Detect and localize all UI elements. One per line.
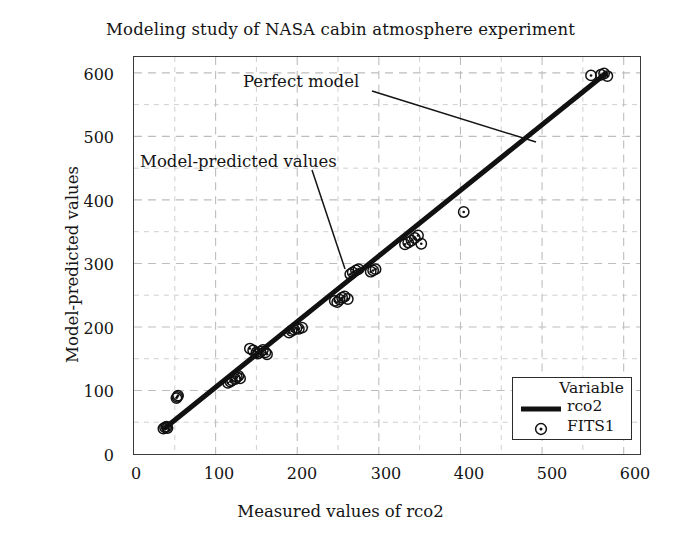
x-tick-label-200: 200 xyxy=(272,464,332,483)
x-axis-title: Measured values of rco2 xyxy=(0,502,681,521)
legend: Variable rco2 FITS1 xyxy=(512,377,632,440)
x-tick-label-500: 500 xyxy=(522,464,582,483)
page-title: Modeling study of NASA cabin atmosphere … xyxy=(0,20,681,39)
annotation-model-predicted: Model-predicted values xyxy=(140,152,337,171)
x-tick-label-100: 100 xyxy=(189,464,249,483)
legend-label-rco2: rco2 xyxy=(567,397,602,415)
y-tick-label-600: 600 xyxy=(52,65,114,84)
y-tick-label-400: 400 xyxy=(52,192,114,211)
y-tick-label-0: 0 xyxy=(52,446,114,465)
x-tick-label-400: 400 xyxy=(439,464,499,483)
legend-label-fits1: FITS1 xyxy=(567,417,615,435)
annotation-perfect-model: Perfect model xyxy=(243,72,359,91)
x-tick-label-600: 600 xyxy=(605,464,665,483)
y-axis-title: Model-predicted values xyxy=(63,55,82,475)
y-tick-label-300: 300 xyxy=(52,255,114,274)
legend-title: Variable xyxy=(559,379,624,397)
y-tick-label-200: 200 xyxy=(52,319,114,338)
legend-item-fits1[interactable]: FITS1 xyxy=(513,418,633,439)
line-swatch-icon xyxy=(519,398,563,419)
chart-figure: Modeling study of NASA cabin atmosphere … xyxy=(0,0,681,547)
y-tick-label-100: 100 xyxy=(52,382,114,401)
legend-item-rco2[interactable]: rco2 xyxy=(513,398,633,419)
circle-dot-marker-icon xyxy=(519,418,563,439)
y-tick-label-500: 500 xyxy=(52,128,114,147)
x-tick-label-300: 300 xyxy=(356,464,416,483)
x-tick-label-0: 0 xyxy=(106,464,166,483)
